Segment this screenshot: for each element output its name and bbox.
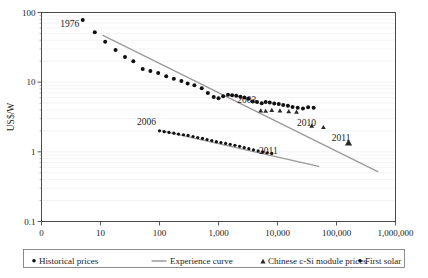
data-point-historical	[141, 67, 145, 71]
y-axis-ticks	[38, 13, 42, 222]
x-tick-label: 1,000	[208, 228, 229, 238]
data-point-historical	[164, 74, 168, 78]
data-point-first-solar	[172, 132, 175, 135]
data-point-historical	[312, 106, 316, 110]
data-point-historical	[264, 100, 268, 104]
data-point-historical	[272, 101, 276, 105]
data-point-historical	[281, 103, 285, 107]
data-point-first-solar	[252, 148, 255, 151]
data-point-historical	[103, 40, 107, 44]
y-tick-label: 0.1	[24, 217, 35, 227]
data-point-historical	[148, 69, 152, 73]
data-point-chinese-csi	[321, 125, 326, 129]
data-point-historical	[206, 91, 210, 95]
y-axis-tick-labels: 1001010.1	[22, 8, 36, 227]
data-point-historical	[131, 59, 135, 63]
data-point-historical	[192, 83, 196, 87]
data-point-historical	[268, 101, 272, 105]
chart-legend: Historical pricesExperience curveChinese…	[24, 250, 405, 268]
data-point-first-solar	[196, 136, 199, 139]
data-point-historical	[172, 77, 176, 81]
chart-canvas: 1001010.1 0101001,00010,000100,0001,000,…	[0, 0, 428, 278]
x-tick-label: 10	[96, 228, 106, 238]
annotation-2011: 2011	[259, 146, 278, 156]
data-point-historical	[306, 105, 310, 109]
data-point-historical	[81, 18, 85, 22]
annotation-2011: 2011	[332, 133, 351, 143]
data-point-chinese-csi	[263, 109, 268, 113]
data-point-first-solar	[233, 144, 236, 147]
data-point-historical	[277, 102, 281, 106]
data-point-first-solar	[247, 147, 250, 150]
legend-marker-circle	[32, 259, 36, 263]
data-point-first-solar	[186, 134, 189, 137]
experience-curve-line	[162, 131, 319, 166]
legend-marker-circle	[358, 259, 362, 263]
data-point-historical	[230, 93, 234, 97]
data-point-first-solar	[229, 143, 232, 146]
chart-annotations: 197620032010201120062011	[60, 19, 351, 156]
annotation-2006: 2006	[137, 117, 156, 127]
series-historical-prices	[81, 18, 316, 110]
x-tick-label: 10,000	[265, 228, 290, 238]
annotation-2003: 2003	[237, 95, 256, 105]
data-point-historical	[123, 55, 127, 59]
annotation-1976: 1976	[60, 19, 79, 29]
data-point-historical	[200, 86, 204, 90]
data-point-first-solar	[219, 141, 222, 144]
data-point-first-solar	[205, 138, 208, 141]
data-point-first-solar	[182, 133, 185, 136]
data-point-first-solar	[210, 139, 213, 142]
data-point-historical	[114, 48, 118, 52]
data-point-historical	[226, 93, 230, 97]
legend-label-1: Experience curve	[170, 256, 233, 266]
x-axis-tick-labels: 0101001,00010,000100,0001,000,000	[39, 228, 414, 238]
data-point-first-solar	[177, 132, 180, 135]
data-point-historical	[156, 71, 160, 75]
data-point-first-solar	[167, 131, 170, 134]
x-tick-label: 100,000	[322, 228, 352, 238]
y-tick-label: 10	[27, 77, 37, 87]
legend-items: Historical pricesExperience curveChinese…	[32, 256, 401, 266]
data-point-historical	[221, 94, 225, 98]
legend-label-2: Chinese c-Si module prices	[268, 256, 367, 266]
plot-frame	[42, 13, 396, 222]
gridlines	[42, 13, 396, 222]
data-point-historical	[93, 30, 97, 34]
y-tick-label: 100	[22, 8, 36, 18]
y-tick-label: 1	[31, 147, 36, 157]
data-point-first-solar	[201, 137, 204, 140]
data-point-historical	[212, 95, 216, 99]
series-first-solar	[158, 129, 273, 155]
data-point-historical	[286, 104, 290, 108]
data-point-historical	[186, 81, 190, 85]
experience-curve-chart: 1001010.1 0101001,00010,000100,0001,000,…	[0, 0, 428, 278]
legend-label-3: First solar	[365, 256, 401, 266]
data-point-first-solar	[191, 135, 194, 138]
data-point-first-solar	[163, 130, 166, 133]
data-point-first-solar	[215, 140, 218, 143]
data-point-first-solar	[238, 145, 241, 148]
data-point-first-solar	[158, 129, 161, 132]
data-point-historical	[291, 105, 295, 109]
data-point-historical	[179, 79, 183, 83]
data-point-historical	[260, 101, 264, 105]
data-point-historical	[217, 96, 221, 100]
legend-label-0: Historical prices	[39, 256, 99, 266]
x-tick-label: 100	[153, 228, 167, 238]
data-point-historical	[301, 106, 305, 110]
x-axis-ticks	[42, 222, 396, 226]
annotation-2010: 2010	[297, 118, 316, 128]
x-tick-label: 0	[39, 228, 44, 238]
data-point-chinese-csi	[258, 108, 263, 112]
data-point-first-solar	[224, 142, 227, 145]
data-point-first-solar	[243, 146, 246, 149]
y-axis-title: US$/W	[6, 103, 16, 132]
data-point-historical	[296, 106, 300, 110]
x-tick-label: 1,000,000	[378, 228, 415, 238]
data-point-chinese-csi	[278, 108, 283, 112]
